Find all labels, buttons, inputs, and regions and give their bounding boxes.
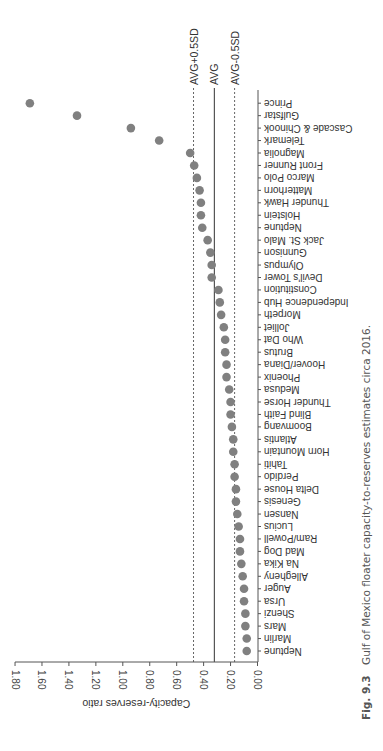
category-label: Who Dat: [264, 334, 303, 345]
data-point: [206, 248, 215, 257]
category-label: Hoover/Diana: [264, 359, 326, 370]
data-point: [197, 211, 206, 220]
data-point: [190, 161, 199, 170]
category-label: Marco Polo: [264, 172, 315, 183]
data-point: [236, 535, 245, 544]
data-point: [230, 472, 239, 481]
category-label: Ram/Powell: [264, 533, 317, 544]
data-point: [238, 572, 247, 581]
category-label: Delta House: [264, 484, 319, 495]
data-point: [241, 622, 250, 631]
data-point: [233, 510, 242, 519]
data-point: [228, 423, 237, 432]
capacity-reserves-chart: AVG+0.5SDAVGAVG-0.5SD 0.000.200.400.600.…: [0, 0, 383, 751]
category-label: Phoenix: [264, 372, 300, 383]
reference-label: AVG-0.5SD: [229, 31, 241, 85]
data-point: [198, 223, 207, 232]
data-point: [222, 373, 231, 382]
data-point: [237, 560, 246, 569]
reference-label: AVG: [208, 64, 220, 85]
category-label: Medusa: [264, 384, 300, 395]
category-label: Shenzi: [264, 608, 295, 619]
tick-label: 1.20: [90, 670, 101, 690]
category-label: Gulfstar: [263, 110, 299, 121]
tick-label: 1.60: [36, 670, 47, 690]
data-point: [73, 111, 82, 120]
data-point: [232, 497, 241, 506]
category-label: Horn Mountain: [264, 446, 330, 457]
data-point: [217, 311, 226, 320]
category-label: Genesis: [264, 496, 301, 507]
data-point: [207, 273, 216, 282]
category-label: Cascade & Chinook: [263, 123, 352, 134]
data-point: [225, 385, 234, 394]
category-label: Nansen: [264, 509, 298, 520]
data-point: [230, 460, 239, 469]
caption-label: Fig. 9.3: [360, 675, 372, 720]
category-label: Atlantis: [264, 434, 297, 445]
data-points: [26, 99, 251, 655]
category-label: Magnolia: [264, 148, 305, 159]
category-label: Olympus: [264, 260, 303, 271]
figure-caption: Fig. 9.3 Gulf of Mexico floater capacity…: [356, 325, 373, 720]
category-label: Neptune: [264, 646, 302, 657]
category-label: Thunder Horse: [264, 397, 331, 408]
value-axis: 0.000.200.400.600.801.001.201.401.601.80: [10, 662, 263, 690]
data-point: [226, 398, 235, 407]
category-label: Ursa: [264, 596, 286, 607]
data-point: [229, 435, 238, 444]
tick-label: 1.00: [117, 670, 128, 690]
data-point: [236, 547, 245, 556]
data-point: [232, 485, 241, 494]
category-label: Tahiti: [264, 459, 287, 470]
data-point: [240, 584, 249, 593]
data-point: [242, 647, 251, 656]
category-label: Mars: [264, 621, 286, 632]
category-label: Perdido: [264, 471, 299, 482]
category-label: Na Kika: [264, 558, 299, 569]
category-label: Prince: [264, 98, 293, 109]
axis-title: Capacity-reserves ratio: [82, 698, 190, 710]
category-label: Gunnison: [264, 247, 307, 258]
tick-label: 0.80: [144, 670, 155, 690]
category-axis: NeptuneMarlinMarsShenziUrsaAugerAlleghen…: [258, 90, 352, 662]
tick-label: 1.40: [63, 670, 74, 690]
category-label: Holstein: [264, 210, 300, 221]
category-label: Matterhorn: [264, 185, 312, 196]
data-point: [127, 124, 136, 133]
data-point: [241, 609, 250, 618]
caption-text: Gulf of Mexico floater capacity-to-reser…: [360, 325, 372, 665]
tick-label: 0.20: [225, 670, 236, 690]
tick-label: 0.40: [198, 670, 209, 690]
category-label: Allegheny: [264, 571, 308, 582]
data-point: [193, 174, 202, 183]
data-point: [155, 136, 164, 145]
data-point: [234, 522, 243, 531]
data-point: [197, 199, 206, 208]
data-point: [242, 634, 251, 643]
category-label: Jolliet: [264, 322, 290, 333]
category-label: Blind Faith: [264, 409, 311, 420]
category-label: Thunder Hawk: [263, 197, 329, 208]
data-point: [226, 410, 235, 419]
data-point: [186, 149, 195, 158]
category-label: Auger: [263, 583, 290, 594]
data-point: [214, 286, 223, 295]
tick-label: 0.00: [252, 670, 263, 690]
category-label: Telemark: [263, 135, 305, 146]
data-point: [229, 448, 238, 457]
tick-label: 0.60: [171, 670, 182, 690]
data-point: [195, 186, 204, 195]
data-point: [207, 261, 216, 270]
data-point: [26, 99, 35, 108]
category-label: Boomvang: [264, 421, 312, 432]
category-label: Independence Hub: [264, 297, 349, 308]
category-label: Lucius: [264, 521, 293, 532]
category-label: Front Runner: [263, 160, 323, 171]
data-point: [221, 348, 230, 357]
data-point: [240, 597, 249, 606]
category-label: Constitution: [264, 284, 317, 295]
reference-label: AVG+0.5SD: [188, 28, 200, 85]
data-point: [203, 236, 212, 245]
category-label: Mad Dog: [264, 546, 305, 557]
